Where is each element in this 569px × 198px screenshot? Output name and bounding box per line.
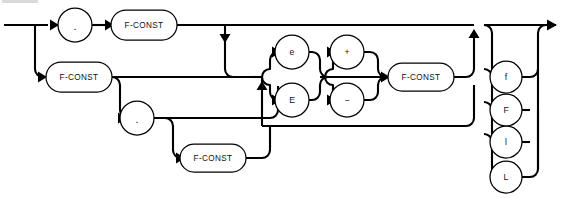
rail-suffix-l-upper-out	[522, 110, 538, 177]
node-suffix-l-upper[interactable]: L	[490, 161, 522, 193]
arrowhead-row1-descend	[220, 34, 231, 43]
rail-dot-mid-to-frac	[165, 118, 181, 158]
node-exp-e-upper[interactable]: E	[275, 83, 309, 117]
node-fconst-frac-label: F-CONST	[194, 154, 233, 163]
railroad-diagram-canvas: . F-CONST F-CONST . F-CONST e	[0, 0, 569, 198]
node-dot-mid-label: .	[135, 113, 138, 125]
rail-row1-to-exponent	[225, 25, 252, 77]
node-suffix-f-lower[interactable]: f	[490, 61, 522, 93]
node-fconst-exp-label: F-CONST	[402, 73, 441, 82]
entry-branch-down	[35, 25, 43, 77]
arrowhead-exit-riser	[469, 29, 480, 38]
arrowhead-exit	[547, 20, 557, 31]
node-fconst-frac[interactable]: F-CONST	[180, 144, 246, 172]
rail-fconst-exp-out	[454, 34, 474, 77]
node-dot-top[interactable]: .	[58, 8, 92, 42]
node-exp-e-upper-label: E	[289, 95, 295, 105]
node-fconst-left[interactable]: F-CONST	[46, 62, 112, 92]
clipped-text-artifact	[2, 0, 38, 3]
node-exp-e-lower[interactable]: e	[275, 35, 309, 69]
node-exp-e-lower-label: e	[290, 47, 295, 57]
rail-frac-return	[246, 126, 270, 158]
railroad-diagram: . F-CONST F-CONST . F-CONST e	[0, 0, 569, 198]
node-sign-minus[interactable]: −	[330, 83, 364, 117]
node-suffix-l-lower[interactable]: l	[490, 126, 522, 158]
nodes-group: . F-CONST F-CONST . F-CONST e	[46, 8, 522, 193]
node-fconst-top-label: F-CONST	[125, 21, 164, 30]
node-sign-plus[interactable]: +	[330, 35, 364, 69]
node-suffix-l-lower-label: l	[505, 137, 507, 147]
node-fconst-top[interactable]: F-CONST	[111, 10, 177, 40]
arrowhead-exponent-riser	[257, 81, 268, 90]
node-dot-mid[interactable]: .	[120, 101, 154, 135]
node-sign-minus-label: −	[344, 95, 349, 105]
node-suffix-l-upper-label: L	[504, 172, 509, 182]
node-suffix-f-upper[interactable]: F	[490, 94, 522, 126]
rail-suffix-f-lower-out	[522, 25, 546, 77]
node-sign-plus-label: +	[344, 47, 349, 57]
node-fconst-exp[interactable]: F-CONST	[388, 63, 454, 91]
node-fconst-left-label: F-CONST	[60, 73, 99, 82]
node-suffix-f-upper-label: F	[503, 105, 508, 115]
node-dot-top-label: .	[73, 20, 76, 32]
rail-dot-mid-to-exponent	[154, 86, 278, 118]
